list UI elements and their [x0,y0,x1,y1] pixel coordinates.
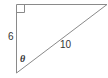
right-angle-marker [17,5,25,13]
right-triangle-diagram: 6 10 θ [0,0,108,78]
hypotenuse-label: 10 [60,39,72,50]
angle-theta-label: θ [20,53,26,64]
vertical-leg-label: 6 [8,31,14,42]
